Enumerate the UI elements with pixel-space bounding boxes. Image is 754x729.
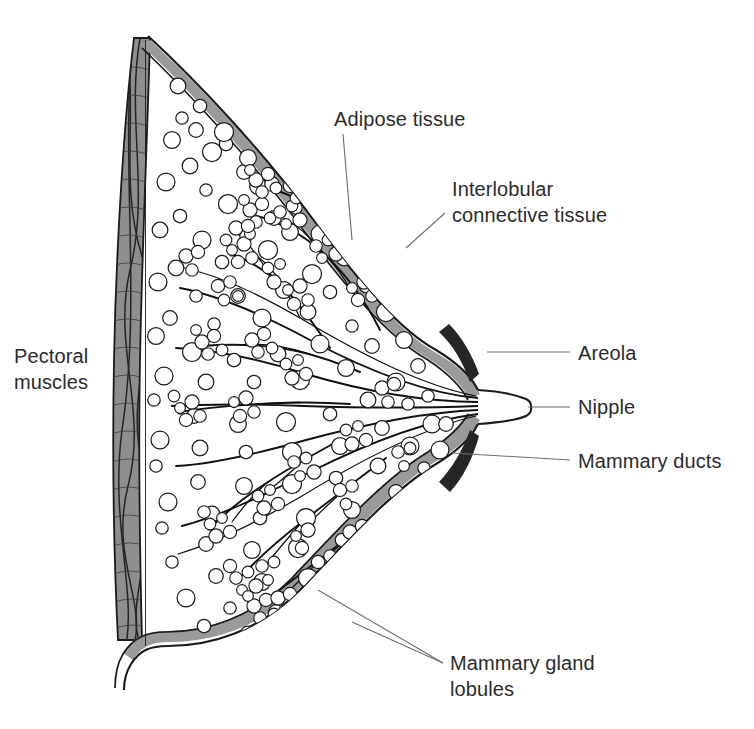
- label-pectoral-muscles-line2: muscles: [14, 371, 88, 393]
- leader-mammary-gland-lobules-b: [352, 622, 443, 663]
- leader-adipose-tissue: [343, 134, 352, 240]
- label-adipose-tissue: Adipose tissue: [334, 108, 465, 130]
- label-mammary-gland-lobules-line2: lobules: [450, 678, 514, 700]
- breast-anatomy-diagram: Adipose tissue Interlobular connective t…: [0, 0, 754, 729]
- label-mammary-ducts: Mammary ducts: [578, 450, 722, 472]
- label-nipple: Nipple: [578, 396, 635, 418]
- anatomy-illustration: Adipose tissue Interlobular connective t…: [0, 0, 754, 729]
- label-interlobular-connective-tissue-line1: Interlobular: [452, 178, 553, 200]
- label-mammary-gland-lobules-line1: Mammary gland: [450, 652, 595, 674]
- label-areola: Areola: [578, 342, 637, 364]
- nipple-outline: [478, 390, 531, 424]
- label-interlobular-connective-tissue-line2: connective tissue: [452, 204, 607, 226]
- leader-interlobular-connective-tissue: [406, 213, 445, 248]
- pectoral-muscle-group: [111, 38, 150, 645]
- pectoral-muscle-body: [113, 38, 150, 640]
- label-pectoral-muscles-line1: Pectoral: [14, 345, 88, 367]
- leader-mammary-gland-lobules-a: [318, 590, 443, 663]
